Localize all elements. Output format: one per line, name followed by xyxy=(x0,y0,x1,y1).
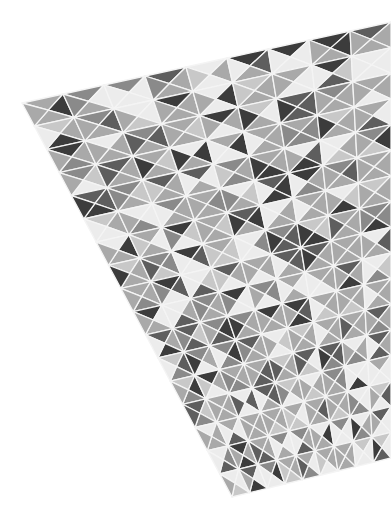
tiled-surface xyxy=(0,0,391,522)
triangle-tiles xyxy=(22,22,391,497)
